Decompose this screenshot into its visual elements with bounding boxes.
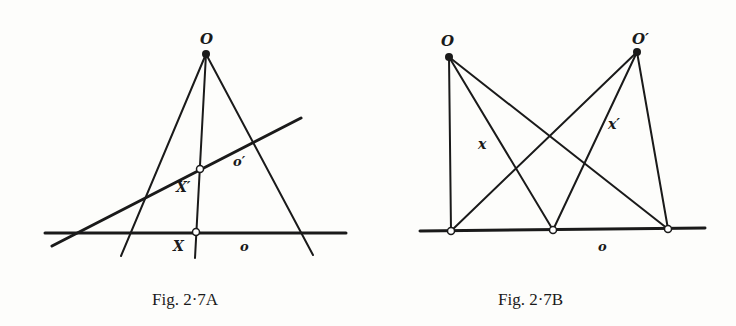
label-o-prime: O′: [632, 30, 649, 48]
label-x-prime: x′: [607, 116, 620, 132]
label-x: X: [172, 238, 185, 254]
figure-b: O O′ x x′ o Fig. 2·7B: [420, 30, 705, 309]
ray-left: [121, 54, 206, 256]
base-point-2: [550, 227, 557, 234]
figure-a: O o′ X′ X o Fig. 2·7A: [45, 30, 346, 309]
point-x: [193, 229, 200, 236]
caption-fig-b: Fig. 2·7B: [498, 290, 563, 309]
ray-o-1: [449, 57, 451, 231]
label-o: O: [441, 32, 454, 50]
center-point-o: [445, 53, 453, 61]
label-x: x: [477, 136, 487, 152]
diagram-canvas: O o′ X′ X o Fig. 2·7A O O′ x x′ o Fig. 2…: [0, 0, 736, 326]
label-x-prime: X′: [175, 179, 191, 195]
ray-o-prime-2: [553, 52, 637, 230]
label-line-o: o: [598, 239, 607, 254]
ray-o-prime-3: [637, 52, 668, 229]
center-point-o-prime: [633, 48, 641, 56]
label-line-o: o: [240, 239, 249, 254]
line-o: [420, 228, 705, 231]
ray-middle: [195, 54, 206, 258]
base-point-1: [448, 228, 455, 235]
point-x-prime: [197, 166, 204, 173]
center-point-o: [202, 50, 210, 58]
caption-fig-a: Fig. 2·7A: [152, 290, 219, 309]
ray-right: [206, 54, 313, 255]
label-o: O: [200, 30, 213, 48]
ray-o-2: [449, 57, 553, 230]
label-o-prime: o′: [233, 154, 246, 169]
base-point-3: [665, 226, 672, 233]
